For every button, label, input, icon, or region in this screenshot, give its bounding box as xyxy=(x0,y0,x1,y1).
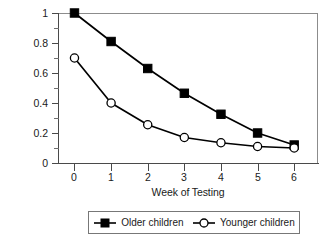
y-tick-label: 0.6 xyxy=(8,68,48,78)
x-axis-line xyxy=(58,163,319,164)
legend-item-younger[interactable]: Younger children xyxy=(192,217,295,229)
x-tick-major xyxy=(221,164,222,171)
x-tick-major xyxy=(184,164,185,171)
x-tick-major xyxy=(258,164,259,171)
y-tick-minor xyxy=(54,88,59,89)
x-tick-label: 4 xyxy=(211,172,231,183)
chart-figure: Correct-Response Probability 00.20.40.60… xyxy=(0,0,333,243)
y-tick-minor xyxy=(54,28,59,29)
x-tick-label: 6 xyxy=(284,172,304,183)
chart-legend: Older children Younger children xyxy=(88,211,300,234)
y-tick-major xyxy=(52,133,59,134)
x-tick-label: 0 xyxy=(64,172,84,183)
y-tick-major xyxy=(52,13,59,14)
y-tick-minor xyxy=(54,118,59,119)
open-circle-marker-icon xyxy=(192,217,216,229)
legend-label-younger: Younger children xyxy=(220,217,295,228)
x-tick-major xyxy=(74,164,75,171)
legend-item-older[interactable]: Older children xyxy=(93,217,183,229)
y-tick-major xyxy=(52,73,59,74)
x-tick-label: 2 xyxy=(138,172,158,183)
x-tick-major xyxy=(294,164,295,171)
y-tick-label: 0 xyxy=(8,158,48,168)
y-tick-label: 0.8 xyxy=(8,38,48,48)
y-tick-minor xyxy=(54,58,59,59)
x-tick-label: 5 xyxy=(248,172,268,183)
plot-area xyxy=(58,13,318,164)
legend-label-older: Older children xyxy=(121,217,183,228)
y-tick-label: 1 xyxy=(8,8,48,18)
x-tick-major xyxy=(111,164,112,171)
x-axis-title: Week of Testing xyxy=(58,186,318,198)
y-tick-label: 0.4 xyxy=(8,98,48,108)
y-tick-major xyxy=(52,163,59,164)
filled-square-marker-icon xyxy=(93,217,117,229)
x-tick-label: 3 xyxy=(174,172,194,183)
y-tick-minor xyxy=(54,148,59,149)
y-tick-label: 0.2 xyxy=(8,128,48,138)
x-tick-label: 1 xyxy=(101,172,121,183)
y-tick-major xyxy=(52,103,59,104)
x-tick-major xyxy=(148,164,149,171)
y-tick-major xyxy=(52,43,59,44)
